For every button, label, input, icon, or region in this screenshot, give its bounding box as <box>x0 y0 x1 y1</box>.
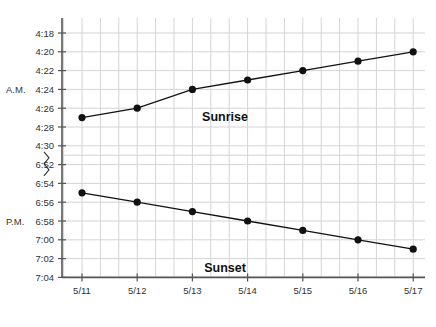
sunrise-label: Sunrise <box>202 110 248 124</box>
grid <box>62 18 425 277</box>
sunset-point <box>299 227 306 234</box>
y-tick-label: 4:20 <box>36 46 55 57</box>
sunrise-point <box>299 67 306 74</box>
x-tick-label: 5/11 <box>73 285 91 296</box>
sunset-point <box>189 208 196 215</box>
y-tick-label: 4:26 <box>36 103 55 114</box>
x-tick-label: 5/17 <box>404 285 423 296</box>
y-tick-label: 4:22 <box>36 65 55 76</box>
x-tick-label: 5/12 <box>128 285 147 296</box>
sunset-point <box>78 189 85 196</box>
sunrise-point <box>354 58 361 65</box>
sunrise-sunset-chart: 4:184:204:224:244:264:284:306:526:546:56… <box>0 0 436 327</box>
sunset-point <box>410 246 417 253</box>
y-tick-label: 6:58 <box>36 216 55 227</box>
x-tick-label: 5/15 <box>294 285 313 296</box>
x-tick-label: 5/13 <box>183 285 202 296</box>
sunset-label: Sunset <box>204 261 247 275</box>
sunrise-point <box>78 114 85 121</box>
sunrise-point <box>189 86 196 93</box>
y-tick-label: 4:18 <box>36 28 55 39</box>
y-tick-label: 4:30 <box>36 140 55 151</box>
sunrise-point <box>134 105 141 112</box>
sunset-point <box>244 217 251 224</box>
x-tick-label: 5/14 <box>238 285 257 296</box>
x-axis-tick-labels: 5/115/125/135/145/155/165/17 <box>73 285 422 296</box>
y-tick-label: 7:00 <box>36 234 55 245</box>
sunrise-point <box>410 48 417 55</box>
sunset-point <box>134 199 141 206</box>
y-tick-label: 4:28 <box>36 122 55 133</box>
y-tick-label: 4:24 <box>36 84 55 95</box>
y-tick-label: 7:04 <box>36 272 55 283</box>
y-axis-tick-labels: 4:184:204:224:244:264:284:306:526:546:56… <box>36 28 55 283</box>
am-pm-labels: A.M.P.M. <box>6 84 26 227</box>
side-label: P.M. <box>6 216 24 227</box>
x-tick-label: 5/16 <box>349 285 368 296</box>
sunrise-point <box>244 76 251 83</box>
y-tick-label: 7:02 <box>36 253 55 264</box>
side-label: A.M. <box>6 84 26 95</box>
y-tick-label: 6:56 <box>36 197 55 208</box>
y-tick-label: 6:54 <box>36 178 55 189</box>
sunset-point <box>354 236 361 243</box>
